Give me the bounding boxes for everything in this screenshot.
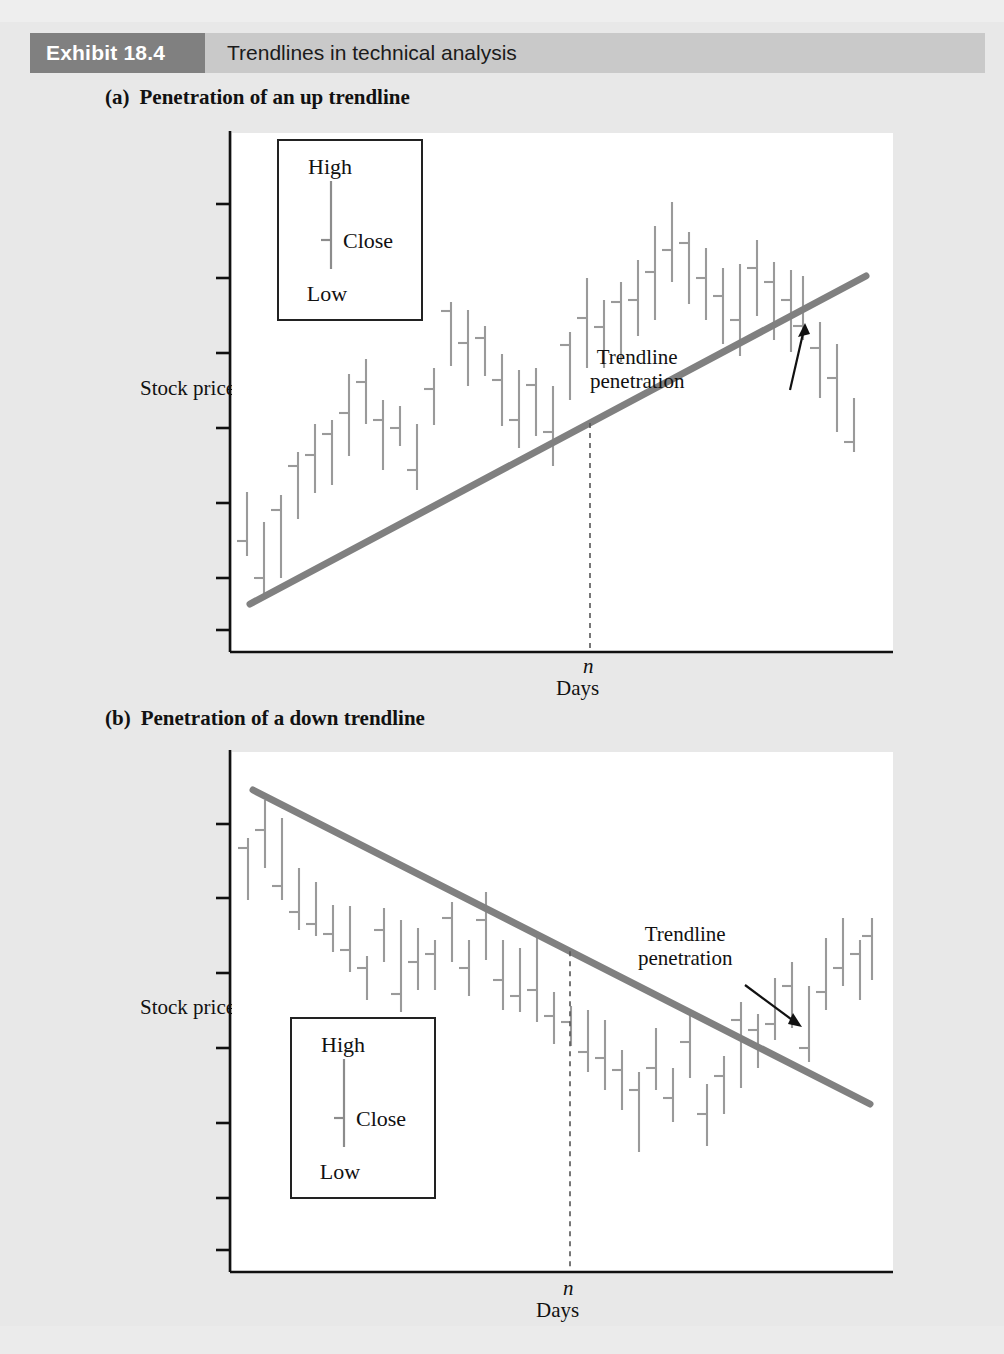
panel-b-axes	[200, 744, 920, 1289]
paper-top-margin	[0, 0, 1004, 22]
panel-a-letter: (a)	[105, 85, 130, 109]
exhibit-header: Exhibit 18.4 Trendlines in technical ana…	[30, 33, 985, 73]
exhibit-title: Trendlines in technical analysis	[205, 33, 985, 73]
exhibit-page: Exhibit 18.4 Trendlines in technical ana…	[0, 0, 1004, 1354]
paper-bottom-margin	[0, 1326, 1004, 1354]
panel-a-axes	[200, 125, 920, 670]
panel-a-subtitle: (a)Penetration of an up trendline	[105, 85, 410, 110]
panel-b-x-axis-label: Days	[536, 1298, 579, 1323]
panel-a-subtitle-text: Penetration of an up trendline	[140, 85, 410, 109]
panel-b-letter: (b)	[105, 706, 131, 730]
exhibit-number-badge: Exhibit 18.4	[30, 33, 205, 73]
panel-a-x-axis-label: Days	[556, 676, 599, 701]
panel-b-subtitle-text: Penetration of a down trendline	[141, 706, 425, 730]
panel-b-subtitle: (b)Penetration of a down trendline	[105, 706, 425, 731]
